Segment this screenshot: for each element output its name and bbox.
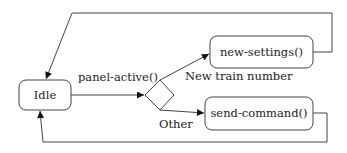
node-send-command: send-command() bbox=[205, 97, 313, 130]
node-idle: Idle bbox=[19, 80, 71, 110]
decision-diamond bbox=[145, 80, 174, 110]
new-settings-label: new-settings() bbox=[220, 45, 303, 59]
node-decision bbox=[145, 80, 174, 110]
state-diagram: panel-active() New train number Other Id… bbox=[0, 0, 347, 153]
edge-decision-to-send-command: Other bbox=[159, 110, 204, 131]
edge-label-other: Other bbox=[159, 117, 193, 131]
idle-label: Idle bbox=[34, 88, 57, 102]
arrow-other bbox=[160, 110, 204, 113]
send-command-label: send-command() bbox=[210, 106, 307, 120]
node-new-settings: new-settings() bbox=[210, 36, 313, 68]
edge-idle-to-decision: panel-active() bbox=[71, 70, 158, 95]
edge-label-new-train-number: New train number bbox=[185, 69, 293, 83]
edge-label-panel-active: panel-active() bbox=[78, 70, 158, 84]
